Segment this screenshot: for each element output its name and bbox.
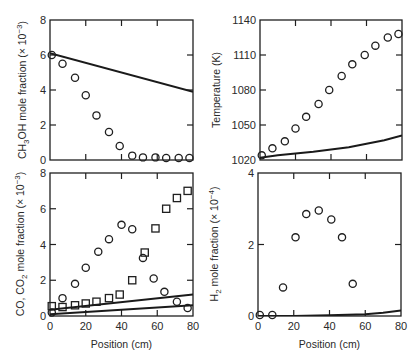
y-tick-label: 1110 [233,49,256,61]
x-tick-label: 60 [151,320,163,332]
data-point-square [152,225,159,232]
data-point-square [105,295,112,302]
data-point-circle [269,311,276,318]
y-tick-label: 0 [248,310,254,322]
y-tick-label: 8 [40,14,46,26]
y-tick-label: 4 [40,84,46,96]
data-point-circle [303,211,310,218]
x-tick-label: 20 [80,320,92,332]
y-axis-title: CH3OH mole fraction (× 10−3) [15,21,31,159]
y-axis-title: H2 mole fraction (× 10−4) [207,187,223,302]
data-point-circle [71,280,78,287]
data-point-circle [105,128,112,135]
y-tick-label: 2 [40,119,46,131]
panel-ch3oh: 02468CH3OH mole fraction (× 10−3) [15,14,193,166]
panel-co-co2: 02040608002468Position (cm)CO, CO2 mole … [13,167,199,350]
data-point-circle [139,254,146,261]
panel-h2: 020406080024Position (cm)H2 mole fractio… [207,167,407,350]
x-tick-label: 0 [47,320,53,332]
x-axis-title: Position (cm) [91,338,152,350]
data-point-circle [71,74,78,81]
data-point-circle [372,42,379,49]
panel-temperature: 10201050108011101140Temperature (K) [210,14,402,166]
x-tick-label: 60 [359,320,371,332]
data-point-circle [150,275,157,282]
data-point-circle [326,86,333,93]
data-point-circle [338,234,345,241]
data-point-square [163,205,170,212]
x-tick-label: 40 [323,320,335,332]
y-axis-title: CO, CO2 mole fraction (× 10−3) [13,172,29,317]
y-tick-label: 1020 [232,154,256,166]
y-tick-label: 1050 [232,119,256,131]
y-tick-label: 2 [248,239,254,251]
data-point-circle [384,34,391,41]
plot-frame [258,173,401,316]
y-tick-label: 2 [40,274,46,286]
model-curve [50,53,193,92]
y-tick-label: 8 [40,167,46,179]
data-point-circle [281,138,288,145]
data-point-circle [292,125,299,132]
y-tick-label: 6 [40,49,46,61]
data-point-circle [292,234,299,241]
x-tick-label: 0 [255,320,261,332]
data-point-circle [315,207,322,214]
x-tick-label: 80 [187,320,199,332]
y-tick-label: 0 [40,310,46,322]
y-tick-label: 1140 [232,14,256,26]
y-tick-label: 4 [248,167,254,179]
data-point-circle [59,295,66,302]
y-tick-label: 4 [40,239,46,251]
data-point-circle [105,236,112,243]
y-tick-label: 1080 [232,84,256,96]
x-axis-title: Position (cm) [299,338,360,350]
plot-frame [50,20,193,160]
data-point-circle [349,280,356,287]
y-tick-label: 6 [40,203,46,215]
y-axis-title: Temperature (K) [210,52,222,128]
data-point-circle [349,61,356,68]
chart-figure: 02468CH3OH mole fraction (× 10−3)1020105… [0,0,419,359]
data-point-circle [129,226,136,233]
plot-frame [50,173,193,316]
data-point-circle [328,216,335,223]
data-point-circle [338,72,345,79]
data-point-circle [161,288,168,295]
x-tick-label: 40 [115,320,127,332]
data-point-circle [279,284,286,291]
data-point-circle [95,248,102,255]
data-point-square [184,187,191,194]
x-tick-label: 20 [288,320,300,332]
data-point-circle [361,51,368,58]
data-point-circle [116,142,123,149]
data-point-circle [395,30,402,37]
data-point-circle [59,60,66,67]
data-point-circle [173,298,180,305]
x-tick-label: 80 [395,320,407,332]
data-point-circle [82,264,89,271]
data-point-square [129,277,136,284]
data-point-circle [303,113,310,120]
y-tick-label: 0 [40,154,46,166]
data-point-circle [256,311,263,318]
data-point-circle [315,100,322,107]
data-point-circle [118,221,125,228]
data-point-circle [269,145,276,152]
data-point-circle [93,112,100,119]
data-point-square [173,194,180,201]
data-point-circle [129,152,136,159]
data-point-circle [82,92,89,99]
data-point-square [116,291,123,298]
